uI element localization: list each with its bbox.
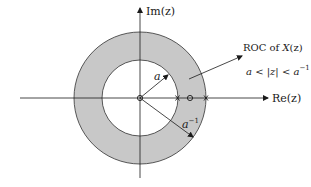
z-plane-diagram: Re(z) Im(z) a a−1 ROC of X(z) a < |z| < … bbox=[0, 0, 311, 187]
imag-axis-label: Im(z) bbox=[146, 5, 175, 18]
roc-title: ROC of X(z) bbox=[243, 42, 303, 53]
roc-inequality: a < |z| < a−1 bbox=[246, 64, 310, 78]
inner-radius-label: a bbox=[154, 70, 161, 83]
real-axis-label: Re(z) bbox=[272, 92, 301, 105]
